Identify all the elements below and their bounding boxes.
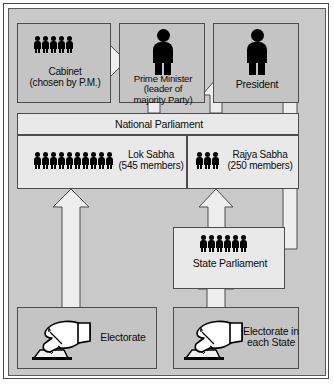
diagram-canvas: Cabinet (chosen by P.M.) Prime Minister … <box>8 8 326 376</box>
rajya-sabha-label-line2: (250 members) <box>224 161 296 172</box>
node-prime-minister[interactable]: Prime Minister (leader of majority Party… <box>119 23 205 103</box>
single-person-icon <box>247 29 267 75</box>
node-lok-sabha-label: Lok Sabha (545 members) <box>118 150 184 172</box>
arrow-electorate-to-lok-sabha <box>53 189 89 309</box>
node-lok-sabha[interactable]: Lok Sabha (545 members) <box>17 135 187 189</box>
node-cabinet-label: Cabinet (chosen by P.M.) <box>18 67 112 89</box>
node-electorate[interactable]: Electorate <box>17 307 157 369</box>
ten-people-icon <box>34 152 113 169</box>
node-president[interactable]: President <box>213 23 299 103</box>
arrow-state-parliament-to-rajya-sabha <box>199 189 233 231</box>
president-label-line1: President <box>214 79 300 90</box>
node-state-parliament-label: State Parliament <box>174 258 286 269</box>
lok-sabha-label-line2: (545 members) <box>118 161 184 172</box>
diagram-screenshot: Cabinet (chosen by P.M.) Prime Minister … <box>0 0 334 384</box>
node-president-label: President <box>214 79 300 90</box>
node-state-parliament[interactable]: State Parliament <box>173 227 285 289</box>
node-prime-minister-label: Prime Minister (leader of majority Party… <box>120 74 206 105</box>
five-people-icon <box>34 36 73 53</box>
hand-marking-ballot-icon <box>28 318 94 364</box>
six-people-icon <box>200 235 247 252</box>
pm-label-line3: majority Party) <box>120 95 206 105</box>
three-people-icon <box>196 152 219 169</box>
single-person-icon <box>153 29 173 75</box>
node-rajya-sabha[interactable]: Rajya Sabha (250 members) <box>187 135 299 189</box>
hand-marking-ballot-icon <box>180 318 246 364</box>
electorate-state-label-line2: each State <box>242 337 300 348</box>
node-rajya-sabha-label: Rajya Sabha (250 members) <box>224 150 296 172</box>
cabinet-label-line2: (chosen by P.M.) <box>18 78 112 89</box>
node-electorate-each-state[interactable]: Electorate in each State <box>173 307 299 369</box>
node-electorate-label: Electorate <box>92 332 154 343</box>
national-parliament-label: National Parliament <box>18 119 300 130</box>
node-national-parliament-header[interactable]: National Parliament <box>17 113 299 135</box>
node-electorate-each-state-label: Electorate in each State <box>242 326 300 349</box>
node-cabinet[interactable]: Cabinet (chosen by P.M.) <box>17 23 111 103</box>
